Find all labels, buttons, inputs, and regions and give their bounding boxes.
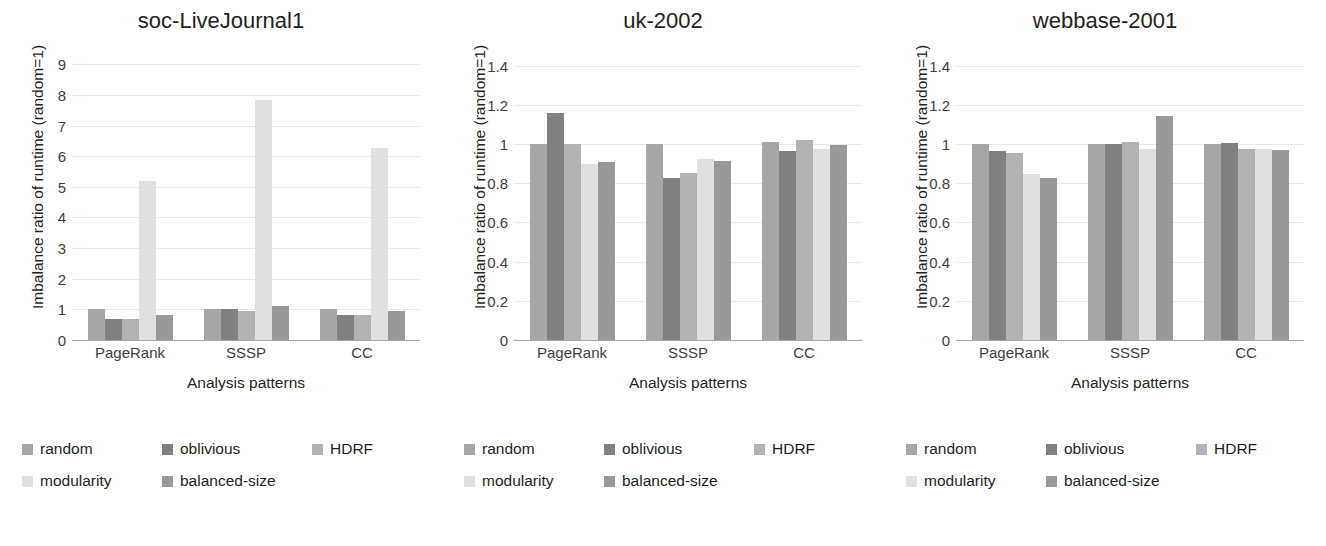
bar-random[interactable] [320, 309, 337, 340]
bar-oblivious[interactable] [779, 151, 796, 340]
y-tick-label: 5 [28, 178, 66, 195]
legend-swatch-balanced-size [162, 476, 173, 487]
legend-item-balanced-size: balanced-size [1046, 472, 1196, 490]
legend-label-hdrf: HDRF [330, 440, 373, 458]
bar-HDRF[interactable] [564, 144, 581, 340]
x-tick-label: PageRank [956, 344, 1072, 361]
legend-swatch-hdrf [1196, 444, 1207, 455]
y-tick-label: 4 [28, 209, 66, 226]
bar-balanced-size[interactable] [272, 306, 289, 340]
bar-balanced-size[interactable] [1272, 150, 1289, 340]
legend: random oblivious HDRF modularity [906, 440, 1306, 504]
bar-oblivious[interactable] [105, 319, 122, 340]
bar-oblivious[interactable] [337, 315, 354, 340]
bar-HDRF[interactable] [1122, 142, 1139, 340]
legend-item-hdrf: HDRF [312, 440, 422, 458]
legend-item-oblivious: oblivious [604, 440, 754, 458]
legend-label-random: random [924, 440, 977, 458]
bar-random[interactable] [972, 144, 989, 340]
bar-modularity[interactable] [139, 181, 156, 340]
x-tick-label: PageRank [514, 344, 630, 361]
x-axis-ticks: PageRankSSSPCC [956, 344, 1304, 361]
bar-balanced-size[interactable] [1156, 116, 1173, 340]
bar-random[interactable] [1204, 144, 1221, 340]
y-tick-label: 1.2 [470, 96, 508, 113]
legend-item-balanced-size: balanced-size [604, 472, 754, 490]
legend-item-hdrf: HDRF [754, 440, 864, 458]
bar-modularity[interactable] [1255, 149, 1272, 340]
y-tick-label: 9 [28, 56, 66, 73]
legend-row-1: random oblivious HDRF [464, 440, 864, 458]
bar-group [1204, 52, 1289, 340]
bar-oblivious[interactable] [1221, 143, 1238, 340]
legend-item-random: random [464, 440, 604, 458]
bar-modularity[interactable] [1139, 149, 1156, 340]
x-axis-title: Analysis patterns [956, 374, 1304, 392]
bar-oblivious[interactable] [547, 113, 564, 340]
bar-balanced-size[interactable] [830, 145, 847, 340]
legend-label-hdrf: HDRF [1214, 440, 1257, 458]
bar-oblivious[interactable] [1105, 144, 1122, 340]
legend-swatch-hdrf [312, 444, 323, 455]
bar-HDRF[interactable] [354, 315, 371, 340]
legend-swatch-hdrf [754, 444, 765, 455]
bar-HDRF[interactable] [1238, 149, 1255, 340]
y-tick-label: 0 [912, 332, 950, 349]
bar-HDRF[interactable] [122, 319, 139, 340]
bar-random[interactable] [762, 142, 779, 340]
bar-modularity[interactable] [813, 149, 830, 340]
bar-oblivious[interactable] [989, 151, 1006, 340]
bar-random[interactable] [204, 309, 221, 340]
bar-group [204, 52, 289, 340]
legend-swatch-balanced-size [604, 476, 615, 487]
bar-HDRF[interactable] [1006, 153, 1023, 340]
bar-random[interactable] [646, 144, 663, 340]
x-axis-title: Analysis patterns [514, 374, 862, 392]
bar-group [646, 52, 731, 340]
x-tick-label: CC [304, 344, 420, 361]
bar-group [320, 52, 405, 340]
x-tick-label: SSSP [1072, 344, 1188, 361]
chart-panel-uk-2002: uk-2002 Imbalance ratio of runtime (rand… [442, 0, 884, 546]
legend-item-random: random [22, 440, 162, 458]
legend-swatch-modularity [906, 476, 917, 487]
bar-balanced-size[interactable] [156, 315, 173, 340]
legend-row-1: random oblivious HDRF [906, 440, 1306, 458]
x-tick-label: CC [1188, 344, 1304, 361]
panel-title: soc-LiveJournal1 [0, 8, 442, 34]
bar-modularity[interactable] [255, 100, 272, 340]
bar-HDRF[interactable] [680, 173, 697, 341]
bar-balanced-size[interactable] [714, 161, 731, 340]
y-axis-ticks: 00.20.40.60.811.21.4 [464, 52, 508, 340]
bar-modularity[interactable] [581, 164, 598, 340]
bar-modularity[interactable] [1023, 174, 1040, 340]
legend-swatch-random [906, 444, 917, 455]
bar-modularity[interactable] [697, 159, 714, 340]
y-tick-label: 6 [28, 148, 66, 165]
x-axis-ticks: PageRankSSSPCC [514, 344, 862, 361]
bar-modularity[interactable] [371, 148, 388, 340]
x-axis-ticks: PageRankSSSPCC [72, 344, 420, 361]
y-tick-label: 7 [28, 117, 66, 134]
legend-row-2: modularity balanced-size [906, 472, 1306, 490]
bar-random[interactable] [1088, 144, 1105, 340]
bar-HDRF[interactable] [238, 311, 255, 340]
bar-HDRF[interactable] [796, 140, 813, 340]
y-tick-label: 0 [28, 332, 66, 349]
bar-balanced-size[interactable] [388, 311, 405, 340]
bar-random[interactable] [88, 309, 105, 340]
axes [956, 52, 1304, 341]
legend-label-modularity: modularity [482, 472, 554, 490]
y-tick-label: 0.6 [912, 214, 950, 231]
legend-label-oblivious: oblivious [1064, 440, 1124, 458]
plot-area: Imbalance ratio of runtime (random=1) 00… [884, 52, 1326, 352]
bar-oblivious[interactable] [221, 309, 238, 340]
bar-random[interactable] [530, 144, 547, 340]
legend-item-oblivious: oblivious [162, 440, 312, 458]
bar-balanced-size[interactable] [1040, 178, 1057, 340]
legend-swatch-balanced-size [1046, 476, 1057, 487]
legend-label-random: random [40, 440, 93, 458]
panel-title: uk-2002 [442, 8, 884, 34]
bar-balanced-size[interactable] [598, 162, 615, 340]
bar-oblivious[interactable] [663, 178, 680, 340]
